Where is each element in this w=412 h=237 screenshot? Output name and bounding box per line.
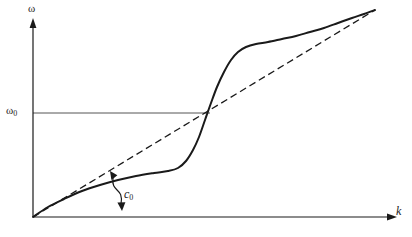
c0-arrowhead-lower-icon bbox=[117, 202, 125, 211]
c0-annotation-label: c0 bbox=[124, 188, 133, 202]
y-axis-label: ω bbox=[28, 3, 35, 14]
omega0-tick-label: ω0 bbox=[6, 105, 17, 118]
x-axis-label: k bbox=[396, 205, 401, 217]
plot-canvas bbox=[0, 0, 412, 237]
c0-subscript: 0 bbox=[129, 193, 133, 202]
dispersion-figure: ω k ω0 c0 bbox=[0, 0, 412, 237]
omega0-subscript: 0 bbox=[13, 109, 17, 118]
y-axis-arrow-icon bbox=[30, 18, 37, 28]
c0-arrowhead-upper-icon bbox=[110, 171, 117, 180]
